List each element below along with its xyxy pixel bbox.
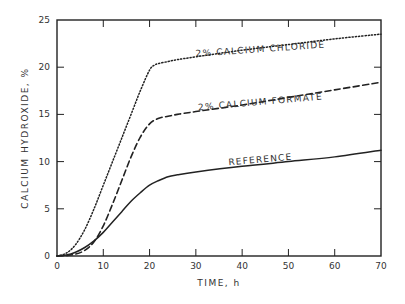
curve-label: 2% CALCIUM FORMATE [198, 92, 324, 113]
x-axis-label: TIME, h [196, 278, 241, 288]
x-tick-label: 20 [144, 261, 156, 271]
x-tick-label: 60 [329, 261, 341, 271]
y-axis-label: CALCIUM HYDROXIDE, % [20, 67, 30, 208]
curve-label: 2% CALCIUM CHLORIDE [195, 40, 325, 59]
series-line-reference [57, 150, 381, 256]
x-tick-label: 50 [283, 261, 295, 271]
y-tick-label: 25 [39, 15, 50, 25]
chart: 0102030405060700510152025 2% CALCIUM CHL… [0, 0, 405, 304]
labels-group: 2% CALCIUM CHLORIDE2% CALCIUM FORMATEREF… [195, 40, 325, 168]
y-tick-label: 0 [44, 251, 50, 261]
y-tick-label: 5 [44, 204, 50, 214]
y-tick-label: 20 [39, 62, 51, 72]
series-line-2-calcium-chloride [57, 34, 381, 256]
y-tick-label: 15 [39, 109, 50, 119]
y-tick-label: 10 [39, 157, 51, 167]
x-tick-label: 30 [190, 261, 202, 271]
x-tick-label: 0 [54, 261, 60, 271]
x-tick-label: 10 [98, 261, 110, 271]
x-tick-label: 40 [236, 261, 248, 271]
curves-group [57, 34, 381, 256]
x-tick-label: 70 [375, 261, 387, 271]
